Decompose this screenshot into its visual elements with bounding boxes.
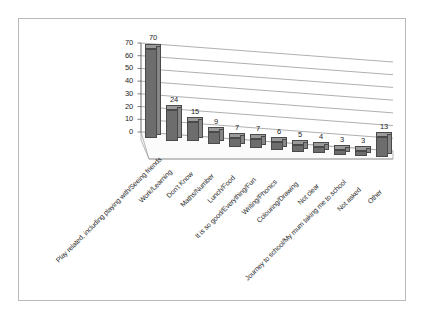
bar-value-0: 70 xyxy=(143,34,163,42)
bar-value-4: 7 xyxy=(227,124,247,132)
bar-front-3 xyxy=(208,132,220,144)
bar-value-11: 13 xyxy=(374,123,394,131)
bar-front-8 xyxy=(313,147,325,153)
y-axis-ticks xyxy=(138,43,142,132)
bar-value-2: 15 xyxy=(185,108,205,116)
bar-value-5: 7 xyxy=(248,125,268,133)
bar-value-10: 3 xyxy=(353,137,373,145)
chart-frame: 70 60 50 40 30 20 10 0 70 24 15 9 7 7 6 … xyxy=(18,18,406,301)
bar-front-11 xyxy=(376,137,388,157)
bar-value-3: 9 xyxy=(206,118,226,126)
y-tick-70: 70 xyxy=(111,39,133,47)
bar-front-9 xyxy=(334,150,346,155)
bar-value-9: 3 xyxy=(332,136,352,144)
bar-front-1 xyxy=(166,110,178,141)
bar-front-4 xyxy=(229,138,241,147)
bar-front-0 xyxy=(145,49,157,138)
bar-front-6 xyxy=(271,142,283,150)
y-tick-60: 60 xyxy=(111,52,133,60)
y-tick-0: 0 xyxy=(111,128,133,136)
bar-front-10 xyxy=(355,151,367,156)
bar-value-7: 5 xyxy=(290,131,310,139)
y-tick-50: 50 xyxy=(111,64,133,72)
bar-front-5 xyxy=(250,139,262,148)
y-tick-30: 30 xyxy=(111,90,133,98)
bar-value-6: 6 xyxy=(269,128,289,136)
bar-front-2 xyxy=(187,122,199,141)
y-tick-10: 10 xyxy=(111,115,133,123)
bar-value-8: 4 xyxy=(311,133,331,141)
y-tick-20: 20 xyxy=(111,103,133,111)
y-tick-40: 40 xyxy=(111,77,133,85)
bar-value-1: 24 xyxy=(164,96,184,104)
bar-front-7 xyxy=(292,145,304,152)
